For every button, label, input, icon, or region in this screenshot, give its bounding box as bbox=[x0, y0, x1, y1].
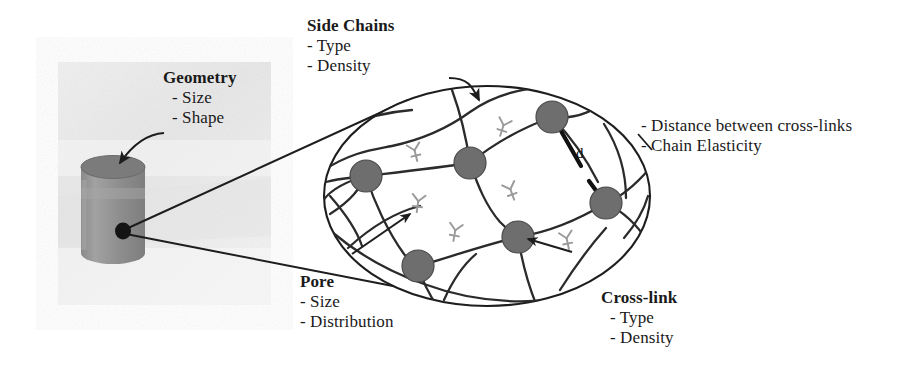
cross-link-node bbox=[502, 221, 534, 253]
side-chains-item-type: - Type bbox=[307, 36, 395, 56]
geometry-label: Geometry - Size - Shape bbox=[163, 68, 236, 128]
cross-link-node bbox=[402, 250, 434, 282]
cross-link-node bbox=[590, 187, 622, 219]
cross-link-item-type: - Type bbox=[601, 308, 677, 328]
pore-item-distribution: - Distribution bbox=[300, 312, 393, 332]
hydrogel-structure-figure: Geometry - Size - Shape Side Chains - Ty… bbox=[0, 0, 920, 370]
geometry-item-shape: - Shape bbox=[163, 108, 236, 128]
cross-link-node bbox=[454, 147, 486, 179]
side-chains-label: Side Chains - Type - Density bbox=[307, 16, 395, 76]
pore-label: Pore - Size - Distribution bbox=[300, 272, 393, 332]
geometry-item-size: - Size bbox=[163, 88, 236, 108]
distance-marker-label: d bbox=[576, 145, 584, 162]
pore-title: Pore bbox=[300, 272, 393, 292]
chain-properties-item-distance: - Distance between cross-links bbox=[641, 116, 852, 136]
cross-link-node bbox=[536, 101, 568, 133]
chain-properties-label: - Distance between cross-links - Chain E… bbox=[641, 116, 852, 156]
side-chains-title: Side Chains bbox=[307, 16, 395, 36]
cross-link-title: Cross-link bbox=[601, 288, 677, 308]
polymer-network-layer bbox=[0, 0, 920, 370]
cross-link-item-density: - Density bbox=[601, 328, 677, 348]
geometry-title: Geometry bbox=[163, 68, 236, 88]
chain-properties-item-elasticity: - Chain Elasticity bbox=[641, 136, 852, 156]
cross-link-node bbox=[350, 160, 382, 192]
side-chains-item-density: - Density bbox=[307, 56, 395, 76]
pore-item-size: - Size bbox=[300, 292, 393, 312]
cross-link-label: Cross-link - Type - Density bbox=[601, 288, 677, 348]
